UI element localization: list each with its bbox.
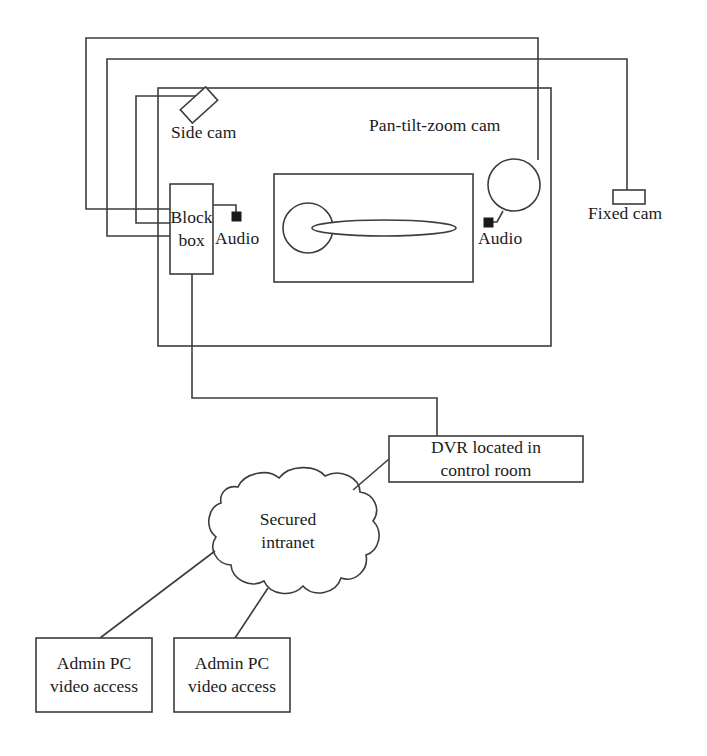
audio-left-icon xyxy=(232,212,241,221)
diagram-canvas: Side cam Pan-tilt-zoom cam Fixed cam Blo… xyxy=(0,0,707,756)
block-box-label-line1: Block xyxy=(171,206,213,229)
block-box-label: Block box xyxy=(170,184,213,274)
cable-block-to-dvr xyxy=(192,274,437,436)
side-cam-icon xyxy=(180,87,217,123)
table-long-top xyxy=(312,220,456,236)
admin-pc-2-line1: Admin PC xyxy=(195,652,269,675)
fixed-cam-icon xyxy=(613,190,645,204)
link-dvr-to-intranet xyxy=(353,459,389,490)
dvr-label-line2: control room xyxy=(441,459,532,482)
block-box-label-line2: box xyxy=(178,229,204,252)
pan-tilt-zoom-cam-icon xyxy=(488,159,540,211)
intranet-label-line2: intranet xyxy=(261,531,314,554)
admin-pc-2-line2: video access xyxy=(188,675,276,698)
admin-pc-1-label: Admin PC video access xyxy=(36,638,152,712)
admin-pc-1-line1: Admin PC xyxy=(57,652,131,675)
dvr-box-label: DVR located in control room xyxy=(389,436,583,482)
audio-right-label: Audio xyxy=(478,228,522,250)
side-cam-label: Side cam xyxy=(171,122,236,144)
secured-intranet-label: Secured intranet xyxy=(228,500,348,562)
admin-pc-2-label: Admin PC video access xyxy=(174,638,290,712)
intranet-label-line1: Secured xyxy=(260,508,316,531)
link-intranet-to-admin-pc-2 xyxy=(235,588,268,638)
audio-left-label: Audio xyxy=(215,228,259,250)
dvr-label-line1: DVR located in xyxy=(431,436,541,459)
pan-tilt-zoom-cam-label: Pan-tilt-zoom cam xyxy=(369,115,500,137)
audio-right-icon xyxy=(484,218,493,227)
link-intranet-to-admin-pc-1 xyxy=(100,551,215,638)
admin-pc-1-line2: video access xyxy=(50,675,138,698)
fixed-cam-label: Fixed cam xyxy=(588,203,662,225)
